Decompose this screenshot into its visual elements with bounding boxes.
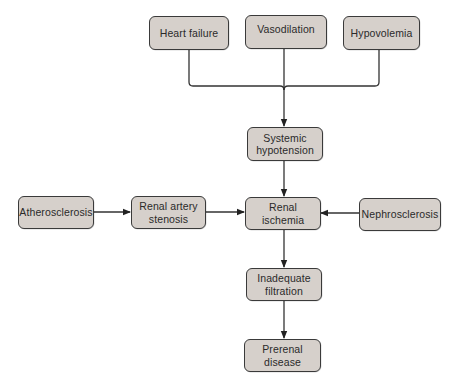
node-heart-failure: Heart failure [149, 16, 229, 50]
edge-hypovolemia-bracket [284, 49, 379, 90]
node-renal-artery-stenosis: Renal artery stenosis [131, 196, 206, 229]
node-label: Heart failure [160, 27, 219, 40]
node-label: Inadequate filtration [257, 272, 311, 297]
node-label: Vasodilation [257, 23, 315, 36]
node-hypovolemia: Hypovolemia [343, 16, 420, 50]
edge-heart-failure-bracket [189, 49, 284, 90]
node-label: Renal ischemia [262, 201, 304, 226]
node-renal-ischemia: Renal ischemia [245, 197, 321, 230]
node-label: Prerenal disease [262, 343, 303, 368]
node-atherosclerosis: Atherosclerosis [18, 196, 94, 229]
node-vasodilation: Vasodilation [245, 15, 327, 49]
prerenal-disease-flowchart: Heart failure Vasodilation Hypovolemia S… [0, 0, 454, 381]
node-label: Renal artery stenosis [139, 200, 197, 225]
connector-layer [0, 0, 454, 381]
node-prerenal-disease: Prerenal disease [244, 339, 321, 372]
node-inadequate-filtration: Inadequate filtration [246, 268, 322, 301]
node-systemic-hypotension: Systemic hypotension [247, 127, 323, 161]
node-label: Atherosclerosis [19, 206, 92, 219]
node-nephrosclerosis: Nephrosclerosis [359, 198, 441, 231]
node-label: Nephrosclerosis [362, 208, 439, 221]
node-label: Systemic hypotension [256, 132, 314, 157]
node-label: Hypovolemia [351, 27, 413, 40]
